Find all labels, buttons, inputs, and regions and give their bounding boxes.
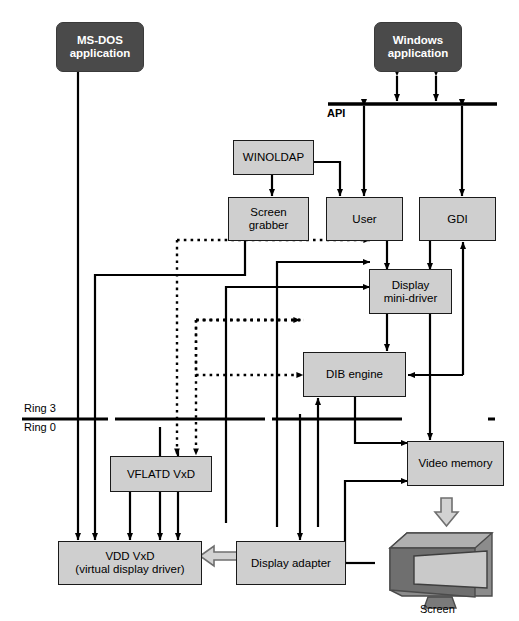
node-label: User: [352, 213, 376, 226]
diagram-canvas: MS-DOS application Windows application W…: [0, 0, 519, 621]
node-windows-application[interactable]: Windows application: [374, 22, 462, 72]
node-vflatd-vxd[interactable]: VFLATD VxD: [110, 456, 212, 492]
node-dib-engine[interactable]: DIB engine: [303, 352, 406, 397]
node-label-line2: application: [388, 47, 449, 59]
node-label: GDI: [447, 213, 467, 226]
node-gdi[interactable]: GDI: [419, 197, 496, 241]
node-label-line1: Windows: [393, 34, 443, 46]
node-label: Video memory: [419, 457, 493, 470]
node-label: WINOLDAP: [243, 151, 304, 164]
node-label-line1: Display: [392, 279, 430, 291]
node-winoldap[interactable]: WINOLDAP: [233, 140, 314, 175]
node-label-line1: Screen: [250, 206, 286, 218]
node-screen-grabber[interactable]: Screen grabber: [228, 197, 309, 241]
node-label-line2: (virtual display driver): [75, 563, 184, 575]
node-label: VFLATD VxD: [127, 468, 195, 481]
node-display-mini-driver[interactable]: Display mini-driver: [369, 269, 452, 314]
node-label: Display adapter: [251, 557, 331, 570]
node-ms-dos-application[interactable]: MS-DOS application: [56, 22, 144, 72]
screen-monitor-illustration: [390, 533, 492, 608]
node-label-line1: VDD VxD: [105, 550, 154, 562]
ring3-label: Ring 3: [24, 402, 56, 414]
node-video-memory[interactable]: Video memory: [407, 441, 504, 486]
node-vdd-vxd[interactable]: VDD VxD (virtual display driver): [58, 541, 202, 585]
hollow-arrow-vidmem-screen: [435, 498, 458, 526]
node-user[interactable]: User: [326, 197, 403, 241]
node-label-line2: mini-driver: [384, 292, 438, 304]
screen-label: Screen: [420, 603, 455, 615]
api-label: API: [327, 107, 345, 119]
node-label: DIB engine: [326, 368, 383, 381]
ring0-label: Ring 0: [24, 421, 56, 433]
node-label-line1: MS-DOS: [77, 34, 123, 46]
node-label-line2: application: [70, 47, 131, 59]
node-label-line2: grabber: [249, 219, 289, 231]
node-display-adapter[interactable]: Display adapter: [236, 541, 346, 585]
